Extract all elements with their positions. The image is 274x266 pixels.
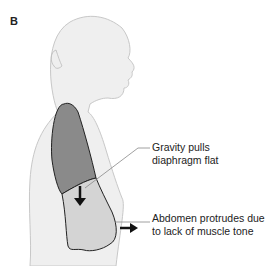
callout-abdomen: Abdomen protrudes due to lack of muscle … — [152, 212, 265, 238]
callout-gravity-line-1: Gravity pulls — [152, 141, 219, 154]
panel-label: B — [10, 15, 18, 27]
callout-gravity: Gravity pulls diaphragm flat — [152, 141, 219, 167]
right-arrow-icon — [120, 223, 138, 233]
callout-abdomen-line-2: to lack of muscle tone — [152, 225, 265, 238]
callout-gravity-line-2: diaphragm flat — [152, 154, 219, 167]
callout-abdomen-line-1: Abdomen protrudes due — [152, 212, 265, 225]
